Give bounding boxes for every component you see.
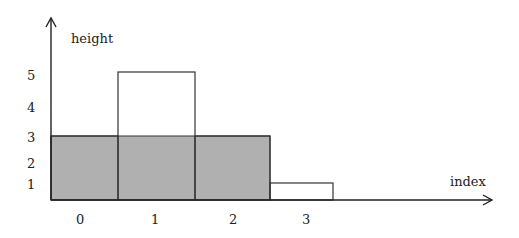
bar-3 xyxy=(270,183,333,200)
y-tick-5: 5 xyxy=(27,68,35,83)
x-tick-2: 2 xyxy=(229,212,237,227)
x-axis-label: index xyxy=(450,174,487,189)
x-tick-0: 0 xyxy=(76,212,84,227)
x-tick-3: 3 xyxy=(302,212,310,227)
y-tick-1: 1 xyxy=(27,177,35,192)
y-tick-3: 3 xyxy=(27,130,35,145)
x-tick-1: 1 xyxy=(151,212,159,227)
shaded-area xyxy=(51,136,270,200)
histogram-chart: height index 5 4 3 2 1 0 1 2 3 xyxy=(0,0,519,238)
y-tick-2: 2 xyxy=(27,156,35,171)
y-axis-label: height xyxy=(71,31,114,46)
y-tick-4: 4 xyxy=(27,100,35,115)
